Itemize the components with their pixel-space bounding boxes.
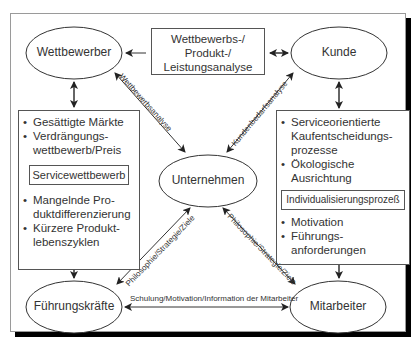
left-inner-label: Servicewettbewerb <box>29 165 129 185</box>
left-item-displacement: Verdrängungs-wettbewerb/Preis <box>23 129 135 157</box>
right-item-leadership: Führungs-anforderungen <box>281 229 405 257</box>
analysis-line-2: Produkt-/ <box>152 46 264 60</box>
right-item-ecological: ÖkologischeAusrichtung <box>281 157 405 185</box>
right-item-motivation: Motivation <box>281 215 405 229</box>
left-item-lifecycles: Kürzere Produkt-lebenszyklen <box>23 221 135 249</box>
right-item-service: ServiceorientierteKaufentscheidungs-proz… <box>281 115 405 157</box>
node-kunde: Kunde <box>291 45 387 59</box>
node-unternehmen: Unternehmen <box>159 173 257 187</box>
left-item-differentiation: Mangelnde Pro-duktdifferenzierung <box>23 193 135 221</box>
left-factors-box: Gesättigte Märkte Verdrängungs-wettbewer… <box>18 110 140 270</box>
analysis-line-3: Leistungsanalyse <box>152 60 264 74</box>
analysis-box: Wettbewerbs-/ Produkt-/ Leistungsanalyse <box>151 28 265 75</box>
left-item-saturated-markets: Gesättigte Märkte <box>23 115 135 129</box>
edge-label-schulung: Schulung/Motivation/Information der Mita… <box>130 294 298 303</box>
right-factors-box: ServiceorientierteKaufentscheidungs-proz… <box>276 110 410 265</box>
analysis-line-1: Wettbewerbs-/ <box>152 32 264 46</box>
node-wettbewerber: Wettbewerber <box>26 45 122 59</box>
node-mitarbeiter: Mitarbeiter <box>290 299 386 313</box>
right-inner-label: Individualisierungsprozeß <box>281 190 405 210</box>
node-fuehrungskraefte: Führungskräfte <box>26 299 122 313</box>
